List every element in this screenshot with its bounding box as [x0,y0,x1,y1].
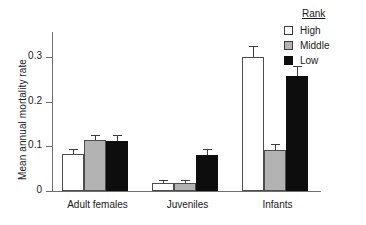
error-bar-stem [297,67,298,76]
x-category-label-juveniles: Juveniles [141,199,234,210]
bar-adult-females-middle [84,140,106,191]
bar-infants-middle [264,150,286,191]
x-axis-line [52,191,321,192]
error-bar-stem [95,136,96,140]
y-tick-label-3: 0.3 [28,50,42,61]
legend-item-middle[interactable]: Middle [284,38,362,53]
bar-adult-females-high [62,154,84,191]
legend-title: Rank [302,8,362,19]
error-bar-stem [117,136,118,141]
legend-swatch-middle-icon [284,41,293,50]
plot-area [52,32,321,191]
legend: Rank High Middle Low [284,8,362,68]
bar-juveniles-low [196,155,218,191]
y-tick-label-2: 0.2 [28,95,42,106]
legend-item-high[interactable]: High [284,23,362,38]
bar-infants-high [242,57,264,191]
y-tick-0: 0 [46,191,52,192]
x-category-label-infants: Infants [231,199,324,210]
legend-swatch-high-icon [284,26,293,35]
legend-label-low: Low [300,55,318,66]
x-category-label-adult-females: Adult females [51,199,144,210]
error-bar-cap [271,144,280,145]
error-bar-cap [181,180,190,181]
bar-juveniles-middle [174,183,196,191]
error-bar-stem [207,150,208,155]
error-bar-stem [163,181,164,183]
legend-label-high: High [300,25,321,36]
legend-label-middle: Middle [300,40,329,51]
error-bar-cap [159,180,168,181]
error-bar-stem [73,150,74,154]
y-axis-title: Mean annual mortality rate [17,35,28,205]
legend-item-low[interactable]: Low [284,53,362,68]
error-bar-cap [91,135,100,136]
error-bar-stem [253,47,254,57]
bar-infants-low [286,76,308,191]
y-tick-label-0: 0 [36,184,42,195]
bar-juveniles-high [152,183,174,191]
error-bar-cap [203,149,212,150]
error-bar-cap [249,46,258,47]
error-bar-stem [275,145,276,150]
error-bar-stem [185,181,186,183]
legend-swatch-low-icon [284,56,293,65]
error-bar-cap [69,149,78,150]
bar-adult-females-low [106,141,128,191]
bar-chart-figure: Mean annual mortality rate 0 0.1 0.2 0.3… [0,0,366,225]
error-bar-cap [113,135,122,136]
y-tick-label-1: 0.1 [28,139,42,150]
